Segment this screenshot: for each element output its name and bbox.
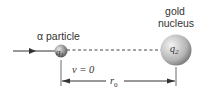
right-arrowhead-icon: [167, 79, 175, 84]
distance-dimension: r0: [62, 75, 175, 89]
charge1-subscript: 1: [61, 52, 64, 58]
velocity-label: v = 0: [72, 64, 95, 75]
gold-nucleus-sphere: q2: [161, 35, 192, 66]
alpha-particle-sphere: q1: [55, 45, 68, 58]
diagram-canvas: q1 q2 α particle gold nucleus v = 0: [0, 0, 205, 98]
direction-arrowhead-icon: [29, 48, 36, 54]
distance-subscript: 0: [114, 81, 118, 89]
charge2-subscript: 2: [175, 48, 179, 56]
left-arrowhead-icon: [62, 79, 70, 84]
svg-text:r0: r0: [110, 75, 118, 89]
nucleus-label-line1: gold: [165, 5, 185, 17]
incoming-trajectory: [13, 48, 55, 54]
nucleus-label-line2: nucleus: [158, 17, 194, 29]
alpha-particle-label: α particle: [37, 30, 80, 42]
